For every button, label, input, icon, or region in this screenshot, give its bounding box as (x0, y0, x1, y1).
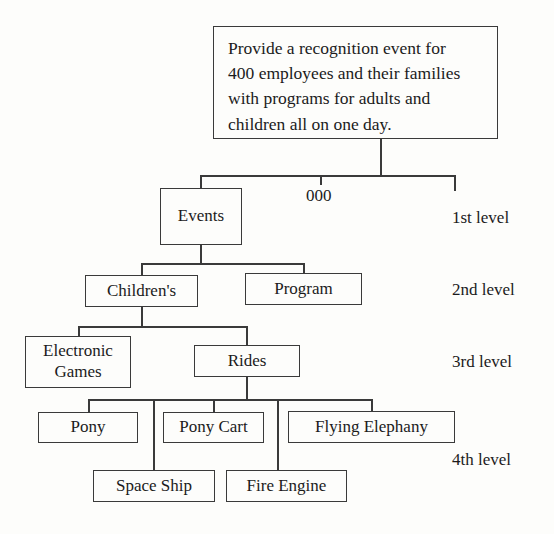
objective-line-1: Provide a recognition event for (228, 36, 460, 61)
node-space-ship: Space Ship (93, 470, 215, 502)
node-electronic-games: Electronic Games (25, 336, 131, 388)
level-label-4: 4th level (452, 450, 511, 470)
node-pony-cart: Pony Cart (163, 412, 264, 443)
level-label-2: 2nd level (452, 280, 515, 300)
node-childrens: Children's (85, 275, 198, 307)
connector-level2-bus (141, 263, 304, 265)
objective-box: Provide a recognition event for 400 empl… (213, 26, 498, 139)
connector-stub-right (454, 175, 456, 191)
objective-line-2: 400 employees and their families (228, 61, 460, 86)
objective-text: Provide a recognition event for 400 empl… (228, 36, 460, 137)
connector-drop-space-ship (153, 399, 155, 470)
node-space-ship-label: Space Ship (116, 476, 192, 496)
connector-level4-bus (88, 399, 372, 401)
node-electronic-games-text: Electronic Games (43, 341, 113, 382)
node-pony-cart-label: Pony Cart (179, 417, 247, 437)
connector-drop-pony (88, 399, 90, 412)
node-events-label: Events (178, 206, 224, 226)
connector-events-stem (200, 245, 202, 264)
objective-line-4: children all on one day. (228, 112, 460, 137)
node-flying-elephany: Flying Elephany (288, 411, 455, 443)
node-electronic-games-line-2: Games (43, 362, 113, 383)
work-breakdown-structure-diagram: Provide a recognition event for 400 empl… (0, 0, 554, 534)
code-label: 000 (306, 186, 332, 206)
connector-drop-fire-engine (277, 399, 279, 470)
connector-level1-bus (200, 175, 456, 177)
node-rides-label: Rides (228, 351, 267, 371)
node-electronic-games-line-1: Electronic (43, 341, 113, 362)
node-fire-engine-label: Fire Engine (247, 476, 327, 496)
node-events: Events (160, 188, 242, 245)
connector-root-stem (380, 139, 382, 176)
node-flying-elephany-label: Flying Elephany (315, 417, 428, 437)
level-label-1: 1st level (452, 208, 509, 228)
node-rides: Rides (194, 345, 300, 377)
connector-drop-pony-cart (213, 399, 215, 412)
level-label-3: 3rd level (452, 352, 512, 372)
connector-drop-events (200, 175, 202, 189)
connector-tick-code (320, 175, 322, 185)
node-pony: Pony (38, 412, 138, 443)
node-childrens-label: Children's (107, 281, 176, 301)
connector-drop-rides (246, 326, 248, 346)
node-pony-label: Pony (71, 417, 106, 437)
objective-line-3: with programs for adults and (228, 86, 460, 111)
connector-level3-bus (78, 326, 247, 328)
node-fire-engine: Fire Engine (226, 470, 347, 502)
connector-childrens-stem (141, 307, 143, 327)
connector-rides-stem (246, 377, 248, 400)
node-program: Program (245, 273, 362, 305)
node-program-label: Program (274, 279, 333, 299)
